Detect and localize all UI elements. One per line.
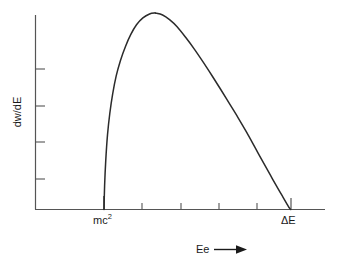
beta-decay-spectrum-figure: dw/dE mc2 ΔE Ee (0, 0, 341, 270)
x-axis-title-text: Ee (196, 244, 209, 255)
y-axis-label-text: dw/dE (12, 97, 23, 128)
x-tick-label-delta-e: ΔE (281, 215, 296, 226)
x-axis-ticks (104, 196, 291, 210)
y-axis-ticks (36, 69, 46, 179)
x-axis-title: Ee (196, 244, 248, 255)
x-tick-label-mc2: mc2 (93, 215, 112, 226)
x-tick-label-mc2-exponent: 2 (108, 212, 112, 221)
plot-canvas (0, 0, 341, 270)
arrow-right-icon (214, 244, 248, 255)
y-axis-label: dw/dE (10, 86, 24, 138)
x-tick-label-mc2-base: mc (93, 214, 108, 226)
spectrum-curve (104, 13, 291, 210)
